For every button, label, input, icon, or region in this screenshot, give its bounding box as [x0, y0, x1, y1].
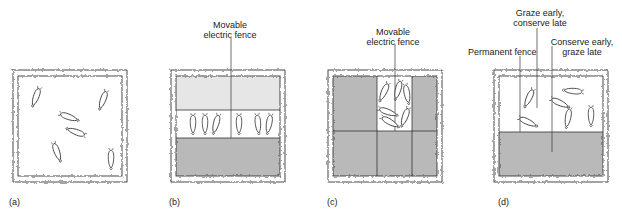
label-c-fence: Movable electric fence — [343, 27, 443, 47]
label-line: electric fence — [343, 37, 443, 47]
label-line: Movable — [343, 27, 443, 37]
label-b-fence: Movable electric fence — [180, 20, 280, 40]
label-line: conserve late — [490, 18, 590, 28]
label-d-conserve-early: Conserve early, graze late — [542, 37, 622, 57]
label-line: Graze early, — [490, 8, 590, 18]
label-line: Permanent fence — [468, 47, 528, 57]
label-d-graze-early: Graze early, conserve late — [490, 8, 590, 28]
panel-letter-b: (b) — [169, 197, 180, 207]
label-line: electric fence — [180, 30, 280, 40]
label-d-permanent-fence: Permanent fence — [468, 47, 528, 57]
label-line: Conserve early, — [542, 37, 622, 47]
panel-c — [328, 44, 442, 182]
grazing-diagram — [0, 0, 622, 215]
label-line: Movable — [180, 20, 280, 30]
panel-letter-c: (c) — [327, 197, 338, 207]
label-line: graze late — [542, 47, 622, 57]
panel-letter-d: (d) — [498, 197, 509, 207]
panel-letter-a: (a) — [9, 197, 20, 207]
panel-a — [13, 70, 127, 182]
panel-b — [171, 38, 285, 182]
